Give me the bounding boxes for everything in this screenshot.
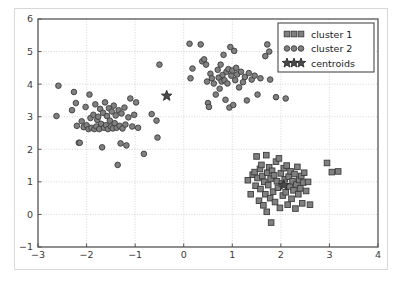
data-point-circle — [267, 77, 273, 83]
data-point-square — [264, 209, 270, 215]
data-point-circle — [223, 97, 229, 103]
data-point-circle — [236, 85, 242, 91]
data-point-circle — [240, 79, 246, 85]
legend-label: centroids — [311, 58, 355, 69]
data-point-circle — [255, 92, 261, 98]
data-point-circle — [73, 100, 79, 106]
data-point-square — [245, 177, 251, 183]
x-tick-label: −3 — [31, 249, 45, 260]
series-cluster-2 — [54, 41, 289, 168]
data-point-circle — [252, 73, 258, 79]
data-point-circle — [87, 92, 93, 98]
y-tick-label: 2 — [27, 144, 33, 155]
data-point-circle — [232, 77, 238, 83]
data-point-circle — [266, 49, 272, 55]
data-point-circle — [111, 103, 117, 109]
data-point-circle — [273, 94, 279, 100]
data-point-circle — [149, 111, 155, 117]
data-point-circle — [93, 102, 99, 108]
data-point-square — [265, 182, 271, 188]
data-point-circle — [95, 114, 101, 120]
data-point-square — [259, 162, 265, 168]
data-point-circle — [201, 57, 207, 63]
data-point-square — [284, 163, 290, 169]
square-marker-icon — [284, 31, 290, 37]
y-tick-label: −1 — [19, 241, 33, 252]
data-point-square — [293, 206, 299, 212]
legend[interactable]: cluster 1cluster 2centroids — [278, 23, 374, 72]
data-point-circle — [122, 105, 128, 111]
centroid-star — [161, 90, 171, 100]
data-point-circle — [79, 118, 85, 124]
data-point-circle — [211, 81, 217, 87]
data-point-circle — [71, 89, 77, 95]
data-point-circle — [102, 100, 108, 106]
data-point-circle — [218, 62, 224, 68]
y-tick-label: 3 — [27, 111, 33, 122]
data-point-circle — [131, 112, 137, 118]
x-tick-label: 4 — [375, 249, 381, 260]
data-point-circle — [126, 115, 132, 121]
data-point-square — [292, 171, 298, 177]
data-point-square — [305, 179, 311, 185]
data-point-circle — [123, 122, 129, 128]
y-tick-label: 0 — [27, 209, 33, 220]
x-tick-label: −1 — [128, 249, 142, 260]
data-point-circle — [54, 113, 60, 119]
data-point-square — [283, 189, 289, 195]
data-point-circle — [238, 69, 244, 75]
data-point-square — [303, 188, 309, 194]
square-marker-icon — [298, 31, 304, 37]
x-tick-label: 1 — [229, 249, 235, 260]
data-point-square — [248, 191, 254, 197]
data-point-circle — [155, 135, 161, 141]
y-tick-label: 5 — [27, 46, 33, 57]
y-tick-label: 4 — [27, 79, 33, 90]
data-point-square — [307, 202, 313, 208]
circle-marker-icon — [284, 46, 290, 52]
data-point-circle — [233, 65, 239, 71]
data-point-circle — [246, 70, 252, 76]
data-point-square — [254, 154, 260, 160]
data-point-circle — [188, 75, 194, 81]
square-marker-icon — [291, 31, 297, 37]
x-tick-label: 3 — [326, 249, 332, 260]
data-point-circle — [203, 62, 209, 68]
circle-marker-icon — [298, 46, 304, 52]
x-tick-label: 0 — [181, 249, 187, 260]
data-point-circle — [157, 62, 163, 68]
data-point-circle — [83, 104, 89, 110]
data-point-circle — [124, 143, 130, 149]
data-point-square — [277, 205, 283, 211]
data-point-circle — [154, 118, 160, 124]
data-point-circle — [69, 107, 75, 113]
data-point-circle — [221, 52, 227, 58]
data-point-circle — [135, 125, 141, 131]
data-point-circle — [215, 67, 221, 73]
data-point-circle — [119, 111, 125, 117]
data-point-square — [272, 199, 278, 205]
data-point-square — [268, 220, 274, 226]
data-point-circle — [258, 75, 264, 81]
data-point-circle — [230, 102, 236, 108]
data-point-circle — [231, 48, 237, 54]
data-point-circle — [113, 113, 119, 119]
data-point-circle — [213, 92, 219, 98]
data-point-square — [252, 169, 258, 175]
x-tick-label: −2 — [80, 249, 94, 260]
data-point-circle — [74, 123, 80, 129]
data-point-square — [335, 169, 341, 175]
data-point-circle — [141, 151, 147, 157]
data-point-square — [297, 186, 303, 192]
data-point-circle — [99, 145, 105, 151]
data-point-circle — [118, 141, 124, 147]
data-point-square — [289, 196, 295, 202]
data-point-circle — [115, 162, 121, 168]
data-point-circle — [127, 96, 133, 102]
data-point-circle — [187, 41, 193, 47]
data-point-square — [261, 203, 267, 209]
data-point-circle — [217, 86, 223, 92]
data-point-square — [295, 164, 301, 170]
data-point-square — [263, 152, 269, 158]
data-point-square — [301, 170, 307, 176]
